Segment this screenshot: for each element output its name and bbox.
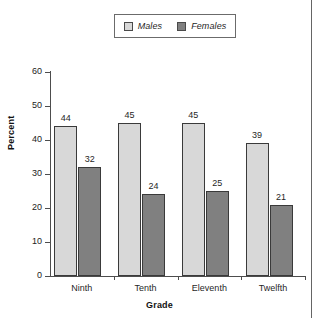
x-tick-eleventh <box>241 276 242 280</box>
y-tick-label-0: 0 <box>22 270 42 280</box>
bar-value-ninth-females: 32 <box>72 154 107 164</box>
page-edge-rule <box>311 0 312 318</box>
legend-entry-males: Males <box>124 21 163 31</box>
chart-legend: Males Females <box>114 14 236 38</box>
y-tick-40 <box>45 140 50 141</box>
legend-entry-females: Females <box>177 21 226 31</box>
bar-twelfth-females <box>270 205 293 276</box>
y-axis-title: Percent <box>6 116 16 150</box>
y-tick-label-20: 20 <box>22 202 42 212</box>
x-tick-ninth <box>114 276 115 280</box>
y-tick-30 <box>45 174 50 175</box>
x-axis-title: Grade <box>0 300 319 310</box>
bar-value-eleventh-males: 45 <box>176 110 211 120</box>
y-tick-20 <box>45 208 50 209</box>
bar-value-twelfth-females: 21 <box>264 192 299 202</box>
legend-swatch-females <box>177 22 186 31</box>
bar-value-tenth-males: 45 <box>112 110 147 120</box>
x-tick-tenth <box>178 276 179 280</box>
bar-ninth-males <box>54 126 77 276</box>
y-tick-label-30: 30 <box>22 168 42 178</box>
bar-tenth-females <box>142 194 165 276</box>
bar-value-eleventh-females: 25 <box>200 178 235 188</box>
y-tick-label-40: 40 <box>22 134 42 144</box>
bar-eleventh-males <box>182 123 205 276</box>
y-tick-50 <box>45 106 50 107</box>
y-tick-label-60: 60 <box>22 66 42 76</box>
bar-chart-figure: Males Females Percent Grade 010203040506… <box>0 0 319 318</box>
y-tick-60 <box>45 72 50 73</box>
y-tick-label-10: 10 <box>22 236 42 246</box>
y-tick-label-50: 50 <box>22 100 42 110</box>
legend-swatch-males <box>124 22 133 31</box>
legend-label-males: Males <box>138 21 163 31</box>
x-tick-label-ninth: Ninth <box>50 283 114 293</box>
bar-value-tenth-females: 24 <box>136 181 171 191</box>
x-tick-twelfth <box>305 276 306 280</box>
bar-tenth-males <box>118 123 141 276</box>
x-tick-label-tenth: Tenth <box>114 283 178 293</box>
y-tick-10 <box>45 242 50 243</box>
y-tick-0 <box>45 276 50 277</box>
y-axis-line <box>50 71 51 277</box>
bar-value-ninth-males: 44 <box>48 113 83 123</box>
bar-value-twelfth-males: 39 <box>240 130 275 140</box>
bar-eleventh-females <box>206 191 229 276</box>
x-tick-label-eleventh: Eleventh <box>178 283 242 293</box>
legend-label-females: Females <box>191 21 226 31</box>
bar-ninth-females <box>78 167 101 276</box>
x-tick-label-twelfth: Twelfth <box>241 283 305 293</box>
bar-twelfth-males <box>246 143 269 276</box>
